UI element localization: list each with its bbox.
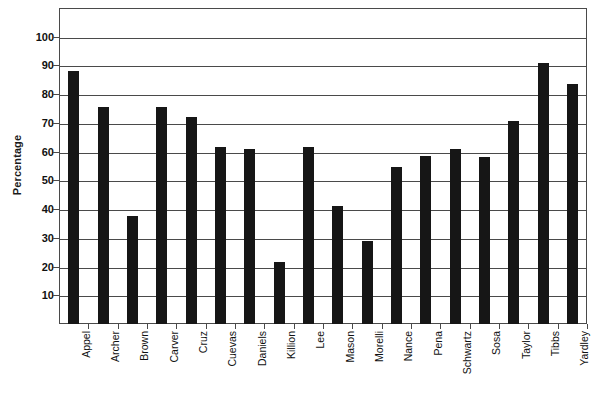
x-axis-category-label: Morelli — [372, 329, 386, 393]
gridline — [60, 239, 586, 240]
x-axis-category-label: Killion — [284, 329, 298, 393]
gridline — [60, 268, 586, 269]
gridline — [60, 124, 586, 125]
y-axis-tick-label: 20 — [26, 261, 54, 272]
y-axis-tick-label: 50 — [26, 175, 54, 186]
plot-area — [59, 8, 587, 324]
gridline — [60, 66, 586, 67]
bar-chart: Percentage 102030405060708090100 AppelAr… — [0, 0, 607, 396]
gridline — [60, 181, 586, 182]
x-axis-category-label: Lee — [313, 329, 327, 393]
y-axis-tick-label: 10 — [26, 290, 54, 301]
x-axis-category-label: Daniels — [255, 329, 269, 393]
y-axis-tick-label: 70 — [26, 117, 54, 128]
x-axis-category-label: Archer — [108, 329, 122, 393]
x-axis-category-label: Cuevas — [225, 329, 239, 393]
y-axis-tick-labels: 102030405060708090100 — [20, 8, 54, 324]
x-axis-category-label: Taylor — [519, 329, 533, 393]
y-axis-tick-label: 80 — [26, 89, 54, 100]
x-axis-category-label: Pena — [431, 329, 445, 393]
gridline — [60, 95, 586, 96]
y-axis-tick-label: 30 — [26, 232, 54, 243]
x-axis-category-label: Appel — [79, 329, 93, 393]
x-axis-category-labels: AppelArcherBrownCarverCruzCuevasDanielsK… — [59, 329, 587, 396]
x-axis-category-label: Tibbs — [548, 329, 562, 393]
x-axis-category-label: Nance — [401, 329, 415, 393]
y-axis-tick-label: 60 — [26, 146, 54, 157]
x-axis-category-label: Carver — [167, 329, 181, 393]
x-axis-category-label: Mason — [343, 329, 357, 393]
x-axis-category-label: Cruz — [196, 329, 210, 393]
x-axis-category-label: Brown — [137, 329, 151, 393]
gridline — [60, 38, 586, 39]
x-axis-category-label: Schwartz — [460, 329, 474, 393]
gridline — [60, 210, 586, 211]
x-axis-category-label: Yardley — [577, 329, 591, 393]
gridline — [60, 153, 586, 154]
y-axis-tick-label: 90 — [26, 60, 54, 71]
x-axis-category-label: Sosa — [489, 329, 503, 393]
y-axis-tick-label: 100 — [26, 31, 54, 42]
y-axis-tick-label: 40 — [26, 204, 54, 215]
gridline — [60, 296, 586, 297]
